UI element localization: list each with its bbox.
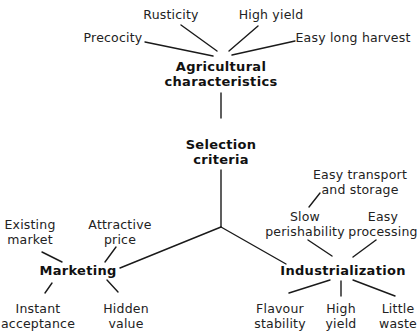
connector-easy-processing [353,240,376,257]
label-instant-acceptance-line2: acceptance [1,317,75,331]
label-high-yield-agri: High yield [239,8,304,23]
connector-rusticity [181,25,217,51]
connector-little-waste [353,280,395,296]
label-flavour-stability-line2: stability [254,317,306,331]
label-high-yield-ind-line1: High [326,302,357,317]
node-agricultural-characteristics: Agricultural characteristics [165,60,278,89]
label-attractive-price-line1: Attractive [88,218,151,233]
connector-high-yield-agri [229,26,258,51]
connector-hidden-value [107,280,118,292]
connector-flavour-stability [289,280,330,293]
label-attractive-price: Attractive price [88,218,151,247]
label-easy-transport-line2: and storage [313,183,407,198]
label-high-yield-ind: High yield [326,302,357,331]
label-slow-perishability-line1: Slow [265,210,345,225]
node-agricultural-line1: Agricultural [165,60,278,75]
node-industrialization: Industrialization [280,264,405,279]
label-little-waste-line2: waste [379,317,417,331]
label-little-waste-line1: Little [379,302,417,317]
label-easy-processing: Easy processing [348,210,417,239]
label-hidden-value-line2: value [103,317,149,331]
label-flavour-stability: Flavour stability [254,302,306,331]
connector-precocity [145,42,213,56]
node-marketing: Marketing [39,264,116,279]
label-instant-acceptance: Instant acceptance [1,302,75,331]
label-high-yield-ind-line2: yield [326,317,357,331]
node-selection-criteria: Selection criteria [186,138,257,167]
label-flavour-stability-line1: Flavour [254,302,306,317]
label-slow-perishability-line2: perishability [265,225,345,240]
label-hidden-value-line1: Hidden [103,302,149,317]
label-easy-processing-line1: Easy [348,210,417,225]
node-root-line1: Selection [186,138,257,153]
label-attractive-price-line2: price [88,233,151,248]
label-easy-transport-storage: Easy transport and storage [313,168,407,197]
label-little-waste: Little waste [379,302,417,331]
label-precocity: Precocity [84,31,143,46]
node-root-line2: criteria [186,153,257,168]
connector-instant-acceptance [45,283,52,293]
label-existing-market: Existing market [4,218,55,247]
label-hidden-value: Hidden value [103,302,149,331]
connector-easy-long-harvest [232,41,295,55]
label-easy-long-harvest: Easy long harvest [295,31,410,46]
label-existing-market-line1: Existing [4,218,55,233]
label-instant-acceptance-line1: Instant [1,302,75,317]
label-easy-transport-line1: Easy transport [313,168,407,183]
node-agricultural-line2: characteristics [165,75,278,90]
label-slow-perishability: Slow perishability [265,210,345,239]
selection-criteria-diagram: Rusticity High yield Precocity Easy long… [0,0,417,331]
label-existing-market-line2: market [4,233,55,248]
connector-existing-market [42,252,62,262]
label-easy-processing-line2: processing [348,225,417,240]
connector-slow-perishability [308,240,332,256]
connector-attractive-price [105,247,116,262]
label-rusticity: Rusticity [143,8,198,23]
